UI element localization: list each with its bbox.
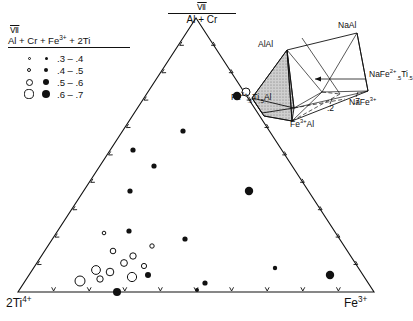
data-point-open (127, 272, 136, 281)
legend: Ⅶ Al + Cr + Fe3+ + 2Ti .3 – .4.4 – .5.5 … (8, 26, 130, 100)
data-point-open (110, 248, 116, 254)
data-point-filled (202, 280, 207, 285)
apex-roman-numeral: Ⅶ (168, 2, 236, 13)
data-point-open (141, 263, 146, 268)
inset-tick-label-1: .7 (353, 97, 360, 106)
data-point-open (102, 231, 106, 235)
data-point-filled (182, 236, 187, 241)
legend-open-circle (20, 89, 38, 98)
edge-tick (87, 287, 91, 291)
data-point-open (97, 276, 103, 282)
legend-row: .5 – .6 (20, 76, 130, 88)
legend-row: .4 – .5 (20, 64, 130, 76)
data-point-filled (151, 163, 156, 168)
apex-label-text: Al + Cr (168, 13, 236, 25)
corner-label-bottom-left: 2Ti4+ (6, 296, 32, 310)
legend-rows: .3 – .4.4 – .5.5 – .6.6 – .7 (20, 52, 130, 100)
inset-label-alal: AlAl (258, 40, 273, 49)
legend-denominator-superscript: 3+ (59, 34, 66, 41)
data-point-filled (130, 147, 135, 152)
legend-denominator: Al + Cr + Fe3+ + 2Ti (8, 36, 130, 48)
apex-label-top: Ⅶ Al + Cr (168, 2, 236, 25)
data-point-filled (145, 272, 151, 278)
legend-row: .3 – .4 (20, 52, 130, 64)
open-circle-data-points (75, 88, 250, 286)
edge-tick (336, 287, 340, 291)
edge-tick (123, 287, 127, 291)
inset-label-naal: NaAl (338, 21, 356, 30)
data-point-filled (326, 271, 334, 279)
legend-range-label: .4 – .5 (57, 65, 83, 76)
legend-filled-circle (38, 90, 54, 98)
edge-tick (52, 287, 56, 291)
edge-tick (265, 287, 269, 291)
data-point-filled (113, 288, 121, 296)
edge-tick (158, 287, 162, 291)
inset-tick-label-0: .2 (327, 104, 334, 113)
legend-range-label: .5 – .6 (57, 77, 83, 88)
corner-label-bottom-right: Fe3+ (344, 296, 367, 310)
data-point-filled (127, 188, 132, 193)
edge-tick (301, 287, 305, 291)
data-point-open (121, 260, 128, 267)
data-point-open (106, 268, 114, 276)
data-point-open (92, 266, 101, 275)
legend-open-circle (20, 57, 38, 60)
legend-title: Ⅶ Al + Cr + Fe3+ + 2Ti (8, 26, 130, 48)
data-point-filled (245, 187, 253, 195)
legend-filled-circle (38, 68, 54, 72)
inset-label-fe3al: Fe3+Al (290, 120, 314, 129)
inset-label-nafe5ti5: NaFe2+.5Ti.5 (369, 70, 413, 79)
data-point-open (75, 276, 85, 286)
edge-tick (230, 287, 234, 291)
data-point-open (130, 253, 136, 259)
inset-label-fe5ti5al: Fe2+.5Ti.5Al (231, 93, 271, 102)
legend-range-label: .6 – .7 (57, 89, 83, 100)
legend-row: .6 – .7 (20, 88, 130, 100)
legend-filled-circle (38, 57, 54, 60)
data-point-filled (273, 266, 277, 270)
legend-open-circle (20, 68, 38, 73)
data-point-filled (126, 228, 131, 233)
legend-filled-circle (38, 79, 54, 85)
data-point-filled (195, 288, 199, 292)
legend-open-circle (20, 79, 38, 86)
legend-range-label: .3 – .4 (57, 53, 83, 64)
data-point-open (150, 244, 154, 248)
data-point-filled (180, 128, 185, 133)
